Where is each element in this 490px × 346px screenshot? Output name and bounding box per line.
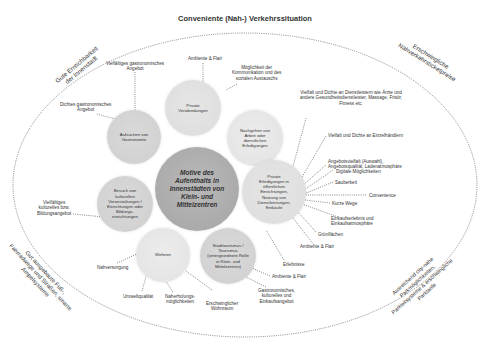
circle-wohnen: Wohnen [136,228,190,282]
label-ambiente-bottom: Ambiente & Flair [272,274,306,279]
label-ambiente-top: Ambiente & Flair [188,56,222,61]
label-wohnraum: Erschwinglicher Wohnraum [206,301,238,312]
label-vielfalt-einzelhaendler: Vielfalt und Dichte an Einzelhändlern [328,133,403,138]
circle-private-verabredungen: Private Verabredungen [165,80,221,136]
label-digitale-moeglichkeiten: Digitale Möglichkeiten [336,169,381,174]
circle-kultur: Besuch von kulturellen Veranstaltungen /… [97,176,153,232]
label-umweltqualitaet: Umweltqualität [123,294,153,299]
circle-private-erledigungen: Private Erledigungen in öffentlichen Ein… [242,160,306,224]
label-einkaufserlebnis: Einkaufserlebnis und Einkaufsatmosphäre [331,216,374,227]
circle-stadttourismus: Stadttourismus / Tourismus (untergeordne… [200,228,256,284]
label-sauberkeit: Sauberkeit [335,180,357,185]
label-naherholung: Naherholungs- möglichkeiten [165,294,195,305]
label-nahversorgung: Nahversorgung [97,265,128,270]
label-kurze-wege: Kurze Wege [332,201,357,206]
label-vielfalt-dienstleister: Vielfalt und Dichte an Dienstleistern wi… [300,90,402,106]
label-gruenflaechen: Grünflächen [318,232,343,237]
label-kulturelles-angebot: Vielfältiges kulturelles bzw. Bildungsan… [37,200,71,216]
label-vielfaeltiges-gastro: Vielfältiges gastronomisches Angebot [106,61,164,72]
label-gastro-kultur: Gastronomisches, kulturelles und Einkauf… [258,288,295,304]
diagram-title: Conveniente (Nah-) Verkehrssituation [0,14,490,23]
label-dichtes-gastro: Dichtes gastronomisches Angebot [60,102,111,113]
label-erlebnisse: Erlebnisse [283,262,304,267]
label-convenience: Convenience [369,193,396,198]
label-kommunikation: Möglichkeit der Kommunikation und des so… [232,65,281,81]
circle-arbeit: Nachgehen von Arbeit oder dienstlichen E… [227,110,283,166]
label-ambiente-right: Ambiente & Flair [300,244,334,249]
circle-gastronomie: Aufsuchen von Gastronomie [107,110,161,164]
center-circle-motive: Motive des Aufenthalts in Innenstädten v… [155,147,239,231]
